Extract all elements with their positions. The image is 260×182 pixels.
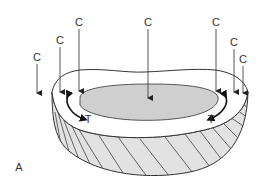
- disc-diagram: C C C C C C C T T A: [0, 0, 260, 182]
- tension-label-left: T: [85, 113, 92, 125]
- tension-label-right: T: [208, 113, 215, 125]
- compression-label-1: C: [33, 51, 41, 63]
- compression-label-7: C: [239, 53, 247, 65]
- compression-label-2: C: [56, 34, 64, 46]
- compression-label-5: C: [212, 16, 220, 28]
- panel-label: A: [15, 161, 23, 173]
- compression-label-center: C: [144, 16, 152, 28]
- compression-label-6: C: [230, 36, 238, 48]
- nucleus-pulposus: [80, 84, 218, 120]
- compression-label-3: C: [75, 16, 83, 28]
